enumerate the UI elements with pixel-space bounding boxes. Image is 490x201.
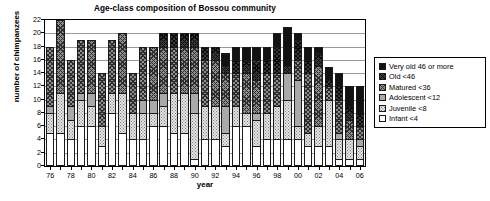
bar-92[interactable] [211, 47, 219, 166]
bar-85[interactable] [139, 47, 147, 166]
bar-segment-infant [170, 133, 178, 166]
bar-segment-juvenile [221, 133, 229, 146]
x-axis-tick-mark [360, 167, 361, 170]
x-axis-tick-mark [174, 167, 175, 170]
y-axis-tick-label: 0 [21, 161, 41, 170]
bar-segment-old [263, 60, 271, 73]
legend-item-label: Matured <36 [389, 84, 431, 91]
bar-segment-veryold [283, 27, 291, 67]
bar-segment-matured [221, 73, 229, 106]
bar-segment-infant [159, 126, 167, 166]
bar-78[interactable] [67, 60, 75, 166]
bar-segment-juvenile [56, 93, 64, 133]
bar-segment-juvenile [170, 93, 178, 133]
x-axis-tick-mark [308, 167, 309, 170]
bar-86[interactable] [149, 47, 157, 166]
bar-segment-matured [294, 60, 302, 80]
bar-87[interactable] [159, 33, 167, 166]
bar-segment-adolescent [46, 106, 54, 113]
bar-84[interactable] [129, 73, 137, 166]
bar-99[interactable] [283, 27, 291, 166]
bar-97[interactable] [263, 47, 271, 166]
bar-80[interactable] [87, 40, 95, 166]
bar-segment-adolescent [221, 106, 229, 133]
legend-item[interactable]: Matured <36 [379, 82, 482, 93]
legend-item[interactable]: Old <46 [379, 72, 482, 83]
x-axis-tick-mark [81, 167, 82, 170]
bar-79[interactable] [77, 40, 85, 166]
bar-91[interactable] [201, 47, 209, 166]
bar-segment-juvenile [232, 106, 240, 126]
bar-01[interactable] [304, 47, 312, 166]
x-axis-tick-mark [246, 167, 247, 170]
bar-segment-juvenile [252, 120, 260, 147]
bar-04[interactable] [335, 73, 343, 166]
x-axis-tick-mark [226, 167, 227, 170]
bar-segment-matured [325, 86, 333, 99]
bar-segment-matured [335, 100, 343, 133]
bar-segment-infant [180, 133, 188, 166]
bar-segment-matured [314, 66, 322, 126]
bar-segment-matured [345, 120, 353, 140]
legend-item[interactable]: Infant <4 [379, 114, 482, 125]
bar-02[interactable] [314, 47, 322, 166]
bar-89[interactable] [180, 33, 188, 166]
bar-segment-veryold [345, 86, 353, 106]
legend-item[interactable]: Juvenile <8 [379, 103, 482, 114]
bar-76[interactable] [46, 47, 54, 166]
bar-83[interactable] [118, 33, 126, 166]
y-axis-tick-label: 22 [21, 15, 41, 24]
bar-segment-infant [190, 159, 198, 166]
bar-segment-infant [201, 139, 209, 166]
swatch-juvenile-icon [379, 105, 386, 112]
bar-segment-juvenile [77, 100, 85, 127]
legend-item[interactable]: Very old 46 or more [379, 61, 482, 72]
bar-segment-juvenile [139, 113, 147, 140]
chart-title: Age-class composition of Bossou communit… [0, 4, 370, 13]
bar-segment-veryold [335, 73, 343, 86]
plot-area [44, 19, 366, 167]
bar-segment-old [335, 86, 343, 99]
bar-segment-infant [67, 139, 75, 166]
bar-96[interactable] [252, 47, 260, 166]
bar-06[interactable] [356, 86, 364, 166]
bar-segment-old [232, 60, 240, 73]
bar-segment-infant [345, 159, 353, 166]
bar-segment-matured [201, 60, 209, 106]
bar-segment-veryold [263, 47, 271, 60]
bar-segment-old [356, 113, 364, 126]
bar-segment-juvenile [345, 139, 353, 159]
bar-segment-infant [304, 146, 312, 166]
bar-segment-infant [118, 133, 126, 166]
legend-item[interactable]: Adolescent <12 [379, 93, 482, 104]
bar-segment-matured [108, 40, 116, 93]
bar-segment-adolescent [67, 106, 75, 119]
legend-item-label: Very old 46 or more [389, 63, 454, 70]
bar-93[interactable] [221, 53, 229, 166]
bar-segment-infant [87, 126, 95, 166]
bar-segment-matured [159, 47, 167, 93]
legend-item-label: Infant <4 [389, 115, 418, 122]
bar-77[interactable] [56, 20, 64, 166]
bar-segment-juvenile [129, 113, 137, 140]
bar-segment-matured [252, 80, 260, 113]
bar-segment-veryold [304, 47, 312, 60]
bar-98[interactable] [273, 33, 281, 166]
bar-95[interactable] [242, 47, 250, 166]
x-axis-title: year [44, 180, 366, 189]
bar-00[interactable] [294, 33, 302, 166]
bar-segment-juvenile [159, 106, 167, 126]
bar-81[interactable] [98, 73, 106, 166]
bar-segment-matured [232, 73, 240, 106]
swatch-old-icon [379, 73, 386, 80]
bar-05[interactable] [345, 86, 353, 166]
bar-94[interactable] [232, 47, 240, 166]
bar-segment-old [201, 47, 209, 60]
bar-segment-veryold [294, 33, 302, 40]
bar-03[interactable] [325, 66, 333, 166]
bar-82[interactable] [108, 40, 116, 166]
bar-90[interactable] [190, 33, 198, 166]
bar-segment-juvenile [180, 93, 188, 133]
bar-88[interactable] [170, 33, 178, 166]
swatch-matured-icon [379, 84, 386, 91]
